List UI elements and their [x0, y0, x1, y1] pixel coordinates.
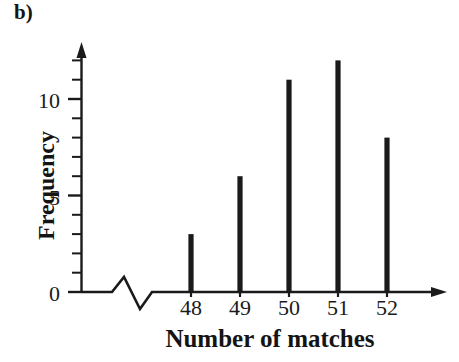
figure-root: b) Frequency Number of matches 0 5 10 48…: [0, 0, 459, 362]
bar-50: [286, 80, 291, 292]
bar-48: [188, 234, 193, 292]
y-axis-arrow-icon: [77, 42, 87, 58]
bar-series-frequency: [188, 60, 389, 292]
x-axis: [81, 277, 447, 309]
y-axis-ticks: [68, 60, 81, 292]
x-axis-break-zigzag: [81, 277, 435, 309]
x-axis-arrow-icon: [431, 287, 447, 297]
bar-49: [237, 176, 242, 292]
bar-51: [335, 60, 340, 292]
bar-52: [384, 138, 389, 292]
plot-area: [0, 0, 459, 362]
